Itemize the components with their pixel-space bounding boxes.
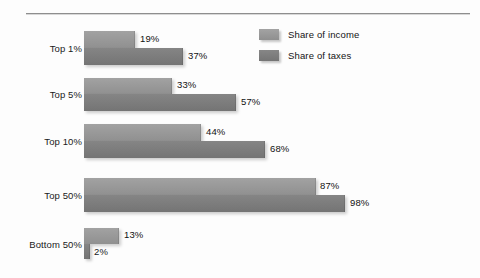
legend-item-share-of-taxes[interactable]: Share of taxes	[259, 47, 419, 63]
value-label-top-50-income: 87%	[320, 180, 339, 191]
bar-top-10-share-of-taxes[interactable]	[84, 141, 265, 158]
bar-top-50-share-of-taxes[interactable]	[84, 195, 345, 212]
bar-top-5-share-of-income[interactable]	[84, 78, 172, 94]
value-label-top-10-income: 44%	[206, 126, 225, 137]
bar-top-1-share-of-taxes[interactable]	[84, 48, 183, 65]
legend-swatch-icon-share-of-income	[259, 29, 279, 40]
chart-legend: Share of income Share of taxes	[259, 26, 419, 68]
category-label-top-10: Top 10%	[44, 136, 82, 147]
bar-top-10-share-of-income[interactable]	[84, 124, 201, 141]
value-label-top-1-income: 19%	[140, 33, 159, 44]
category-label-bottom-50: Bottom 50%	[29, 239, 82, 250]
value-label-top-5-income: 33%	[177, 79, 196, 90]
value-label-top-50-taxes: 98%	[350, 197, 369, 208]
bar-group-bottom-50: Bottom 50% 13% 2%	[0, 228, 480, 259]
value-label-bottom-50-taxes: 2%	[94, 246, 108, 257]
bar-top-1-share-of-income[interactable]	[84, 31, 135, 48]
value-label-top-5-taxes: 57%	[241, 96, 260, 107]
category-label-top-1: Top 1%	[50, 43, 82, 54]
category-label-top-50: Top 50%	[44, 190, 82, 201]
legend-item-share-of-income[interactable]: Share of income	[259, 26, 419, 42]
bar-top-50-share-of-income[interactable]	[84, 178, 316, 195]
bar-bottom-50-share-of-taxes[interactable]	[84, 244, 90, 259]
bar-top-5-share-of-taxes[interactable]	[84, 94, 236, 111]
bar-group-top-50: Top 50% 87% 98%	[0, 178, 480, 212]
bar-bottom-50-share-of-income[interactable]	[84, 228, 119, 244]
legend-label-share-of-taxes: Share of taxes	[288, 50, 351, 61]
value-label-top-10-taxes: 68%	[270, 143, 289, 154]
legend-label-share-of-income: Share of income	[288, 29, 359, 40]
bar-group-top-5: Top 5% 33% 57%	[0, 78, 480, 111]
bar-chart-figure: Top 1% 19% 37% Top 5% 33% 57% Top 10% 44…	[0, 0, 480, 278]
value-label-bottom-50-income: 13%	[124, 229, 143, 240]
category-label-top-5: Top 5%	[50, 89, 82, 100]
legend-swatch-icon-share-of-taxes	[259, 50, 279, 61]
value-label-top-1-taxes: 37%	[188, 50, 207, 61]
bar-group-top-10: Top 10% 44% 68%	[0, 124, 480, 158]
